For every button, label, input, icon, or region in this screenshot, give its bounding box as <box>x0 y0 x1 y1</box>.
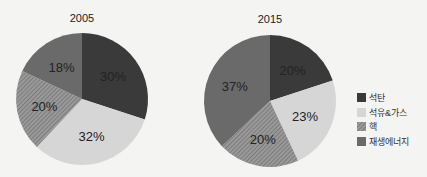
pie-2015-title: 2015 <box>258 13 282 25</box>
legend-label-renewable: 재생에너지 <box>369 137 409 147</box>
legend-label-nuclear: 핵 <box>369 121 377 132</box>
pie-slice-label: 23% <box>292 109 318 124</box>
legend-swatch-coal <box>357 93 366 102</box>
pie-slice-label: 18% <box>48 60 74 75</box>
legend: 석탄 석유&가스 핵 재생에너지 <box>357 93 409 147</box>
pie-slice-label: 37% <box>222 79 248 94</box>
chart-canvas: 30%32%20%18% 20%23%20%37% 2005 2015 석탄 석… <box>0 0 427 177</box>
legend-label-oil-gas: 석유&가스 <box>369 108 407 118</box>
pie-2015: 20%23%20%37% <box>204 35 336 167</box>
pie-slice-label: 30% <box>100 69 126 84</box>
pie-2005: 30%32%20%18% <box>16 33 148 165</box>
legend-label-coal: 석탄 <box>369 93 385 103</box>
pie-2005-title: 2005 <box>70 12 94 24</box>
legend-swatch-renewable <box>357 137 366 146</box>
legend-swatch-nuclear <box>357 122 366 131</box>
legend-swatch-oil-gas <box>357 108 366 117</box>
pie-slice-label: 20% <box>250 132 276 147</box>
pie-slice-label: 32% <box>79 129 105 144</box>
pie-slice-label: 20% <box>279 63 305 78</box>
pie-slice-label: 20% <box>31 99 57 114</box>
